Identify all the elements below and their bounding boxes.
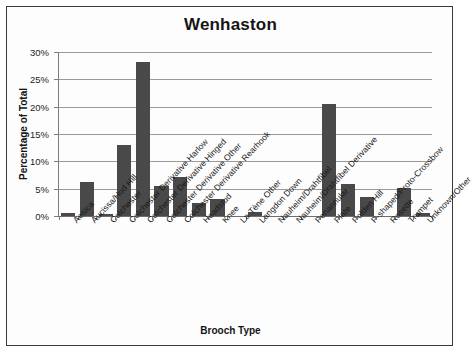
y-axis-line bbox=[58, 52, 59, 216]
y-tick-label: 30% bbox=[5, 47, 49, 58]
bar-slot bbox=[413, 52, 432, 216]
x-axis-title: Brooch Type bbox=[7, 325, 454, 336]
x-axis-category-labels: AesicaAucissa/Hod HillColchesterColchest… bbox=[59, 218, 432, 328]
chart-container: Wenhaston Percentage of Total 0%5%10%15%… bbox=[6, 6, 453, 346]
bar-slot bbox=[227, 52, 246, 216]
y-tick-label: 25% bbox=[5, 74, 49, 85]
y-tick-label: 0% bbox=[5, 211, 49, 222]
y-tick-label: 20% bbox=[5, 101, 49, 112]
chart-title: Wenhaston bbox=[7, 15, 454, 35]
y-tick-label: 5% bbox=[5, 183, 49, 194]
bar-slot bbox=[59, 52, 78, 216]
y-tick-label: 10% bbox=[5, 156, 49, 167]
bar-slot bbox=[78, 52, 97, 216]
y-tick-label: 15% bbox=[5, 129, 49, 140]
